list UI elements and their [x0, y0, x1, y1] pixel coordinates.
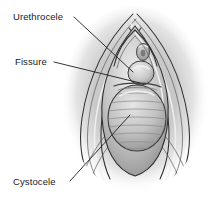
label-urethrocele: Urethrocele [13, 11, 63, 22]
label-cystocele: Cystocele [13, 176, 56, 187]
label-fissure: Fissure [15, 56, 47, 67]
annotation-labels: Urethrocele Fissure Cystocele [13, 11, 63, 187]
medical-illustration: Urethrocele Fissure Cystocele [0, 0, 220, 199]
